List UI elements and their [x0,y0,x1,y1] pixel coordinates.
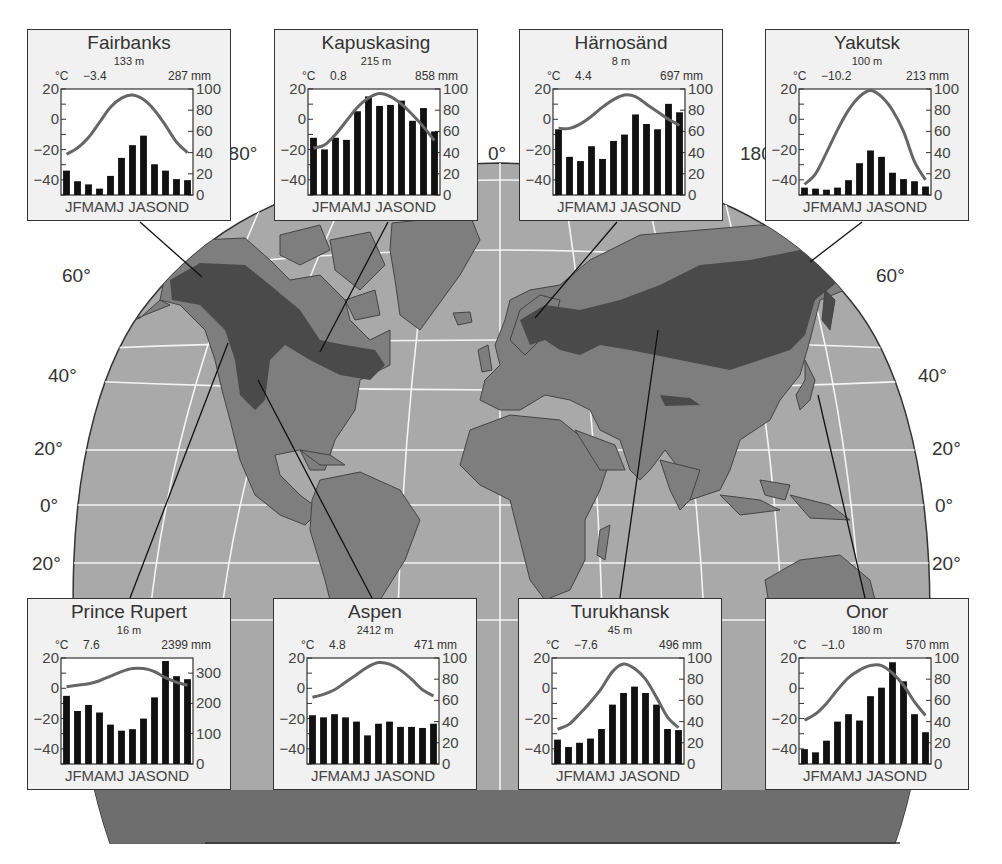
precip-tick-label: 100 [196,80,221,97]
precip-tick-label: 80 [688,101,705,118]
precip-tick-label: 60 [934,691,951,708]
precip-tick-label: 80 [687,670,704,687]
precip-bar [353,722,360,764]
precip-bar [320,717,327,764]
latitude-label-right-0: 0° [935,495,953,517]
precip-bar [823,190,830,195]
precip-bar [588,146,595,195]
precip-bar [643,124,650,195]
month-axis-labels: JFMAMJ JASOND [557,198,681,215]
precip-bar [834,722,841,764]
precip-bar [922,732,929,764]
temp-tick-label: 0 [298,110,306,127]
precip-tick-label: 40 [443,144,460,161]
precip-tick-label: 60 [442,691,459,708]
precip-bar [140,136,147,195]
precip-bar [856,721,863,764]
precip-bar [867,150,874,195]
temp-tick-label: −40 [772,171,797,188]
precip-tick-label: 80 [934,101,951,118]
climate-plot: 200−20−40100806040200JFMAMJ JASOND [274,599,478,791]
precip-bar [900,179,907,195]
precip-bar [609,705,616,764]
precip-bar [354,111,361,195]
precip-tick-label: 0 [934,755,942,772]
precip-tick-label: 20 [196,165,213,182]
temp-tick-label: 0 [51,110,59,127]
precip-tick-label: 40 [687,713,704,730]
precip-bar [107,725,114,764]
precip-bar [845,180,852,195]
precip-tick-label: 0 [687,755,695,772]
precip-bar [620,693,627,764]
temp-tick-label: −20 [772,141,797,158]
precip-bar [631,687,638,764]
precip-bar [834,188,841,195]
precip-bar [577,161,584,195]
temp-tick-label: 20 [533,649,550,666]
precip-bar [365,96,372,195]
precip-bar [173,676,180,764]
precip-tick-label: 40 [688,144,705,161]
month-axis-labels: JFMAMJ JASOND [65,198,189,215]
precip-bar [555,129,562,195]
precip-bar [856,163,863,195]
precip-tick-label: 100 [934,80,959,97]
precip-bar [342,717,349,764]
precip-tick-label: 20 [688,165,705,182]
temp-tick-label: −40 [772,740,797,757]
temp-tick-label: −20 [281,141,306,158]
temp-tick-label: −20 [772,710,797,727]
precip-bar [576,743,583,764]
temp-tick-label: −20 [525,710,550,727]
precip-bar [664,729,671,764]
latitude-label-right-40: 40° [918,365,947,387]
precip-tick-label: 100 [196,725,221,742]
month-axis-labels: JFMAMJ JASOND [803,198,927,215]
precip-bar [162,171,169,195]
temp-tick-label: −40 [281,171,306,188]
longitude-label-0: 0° [488,143,506,165]
climate-plot: 200−20−40100806040200JFMAMJ JASOND [766,30,970,222]
precip-tick-label: 60 [688,122,705,139]
precip-tick-label: 80 [443,101,460,118]
precip-tick-label: 200 [196,694,221,711]
precip-bar [63,696,70,764]
temp-tick-label: −40 [34,171,59,188]
antarctica [0,790,1002,864]
climate-plot: 200−20−403002001000JFMAMJ JASOND [28,599,232,791]
temp-tick-label: −40 [525,740,550,757]
precip-bar [430,724,437,764]
precip-bar [364,735,371,764]
precip-bar [654,129,661,195]
precip-bar [419,728,426,764]
precip-tick-label: 100 [687,649,712,666]
precip-bar [375,724,382,764]
precip-bar [621,135,628,195]
precip-bar [85,705,92,764]
precip-bar [409,121,416,195]
precip-tick-label: 20 [934,734,951,751]
precip-tick-label: 80 [196,101,213,118]
precip-bar [878,688,885,764]
month-axis-labels: JFMAMJ JASOND [312,198,436,215]
temp-tick-label: −20 [34,710,59,727]
month-axis-labels: JFMAMJ JASOND [556,767,680,784]
precip-bar [85,184,92,195]
latitude-label-right-60: 60° [876,265,905,287]
precip-bar [598,729,605,764]
precip-bar [63,171,70,195]
precip-bar [801,749,808,764]
climate-diagram-prince-rupert: Prince Rupert 16 m °C 7.6 2399 mm 200−20… [27,598,231,790]
precip-tick-label: 0 [196,755,204,772]
precip-tick-label: 20 [687,734,704,751]
climate-plot: 200−20−40100806040200JFMAMJ JASOND [28,30,232,222]
precip-tick-label: 0 [196,186,204,203]
climate-plot: 200−20−40100806040200JFMAMJ JASOND [766,599,970,791]
precip-bar [642,693,649,764]
precip-tick-label: 100 [442,649,467,666]
climate-diagram-yakutsk: Yakutsk 100 m °C −10.2 213 mm 200−20−401… [765,29,969,221]
precip-tick-label: 100 [688,80,713,97]
precip-tick-label: 60 [934,122,951,139]
precip-bar [129,729,136,764]
